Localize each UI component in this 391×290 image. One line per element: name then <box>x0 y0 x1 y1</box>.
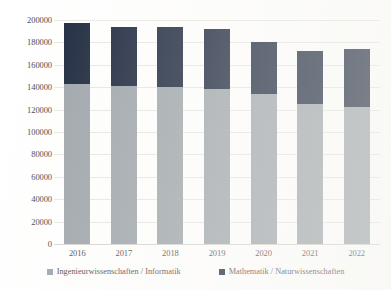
gridline <box>54 244 380 245</box>
bar-group[interactable] <box>111 20 137 244</box>
y-axis-tick-label: 200000 <box>0 16 52 25</box>
bar-segment[interactable] <box>251 42 277 94</box>
bar-segment[interactable] <box>344 49 370 107</box>
legend-label: Ingenieurwissenschaften / Informatik <box>57 268 181 276</box>
legend-item[interactable]: Ingenieurwissenschaften / Informatik <box>47 268 181 276</box>
bar-group[interactable] <box>297 20 323 244</box>
y-axis-tick-label: 140000 <box>0 83 52 92</box>
bar-segment[interactable] <box>344 107 370 244</box>
stacked-bar-chart: 2000001800001600001400001200001000008000… <box>0 0 391 290</box>
y-axis-tick-label: 120000 <box>0 106 52 115</box>
plot-area <box>54 20 380 244</box>
legend-swatch-icon <box>47 269 53 275</box>
bar-segment[interactable] <box>64 84 90 244</box>
bar-segment[interactable] <box>251 94 277 244</box>
bar-segment[interactable] <box>297 104 323 244</box>
y-axis-tick-label: 80000 <box>0 150 52 159</box>
bar-group[interactable] <box>344 20 370 244</box>
bar-segment[interactable] <box>111 27 137 86</box>
y-axis-tick-label: 160000 <box>0 61 52 70</box>
y-axis-tick-label: 60000 <box>0 173 52 182</box>
bar-segment[interactable] <box>111 86 137 244</box>
bar-group[interactable] <box>251 20 277 244</box>
bar-segment[interactable] <box>157 27 183 87</box>
x-axis-tick-label: 2022 <box>327 249 387 258</box>
y-axis-tick-label: 40000 <box>0 195 52 204</box>
bar-group[interactable] <box>64 20 90 244</box>
bar-segment[interactable] <box>204 29 230 89</box>
chart-legend: Ingenieurwissenschaften / InformatikMath… <box>0 268 391 276</box>
bar-segment[interactable] <box>157 87 183 244</box>
bar-segment[interactable] <box>64 23 90 83</box>
y-axis-tick-label: 100000 <box>0 128 52 137</box>
legend-swatch-icon <box>219 269 225 275</box>
y-axis-tick-label: 0 <box>0 240 52 249</box>
legend-item[interactable]: Mathematik / Naturwissenschaften <box>219 268 345 276</box>
bar-segment[interactable] <box>204 89 230 244</box>
y-axis-tick-label: 180000 <box>0 38 52 47</box>
legend-label: Mathematik / Naturwissenschaften <box>229 268 345 276</box>
bar-group[interactable] <box>157 20 183 244</box>
bar-group[interactable] <box>204 20 230 244</box>
bar-segment[interactable] <box>297 51 323 104</box>
y-axis-tick-label: 20000 <box>0 218 52 227</box>
